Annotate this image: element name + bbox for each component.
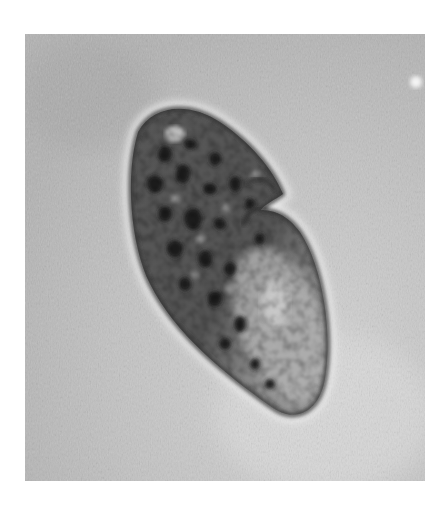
page-canvas: [0, 0, 448, 509]
micrograph-photo: [25, 34, 425, 481]
bright-speck: [410, 76, 422, 88]
micrograph-svg: [25, 34, 425, 481]
